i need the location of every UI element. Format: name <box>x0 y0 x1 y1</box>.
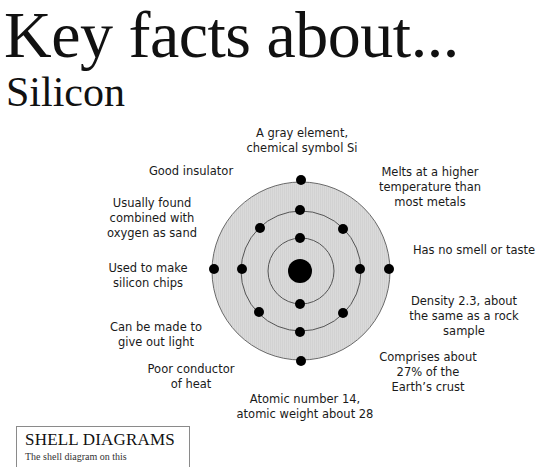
electron <box>296 175 306 185</box>
shell-diagrams-text: The shell diagram on this <box>25 451 127 463</box>
electron <box>255 223 265 233</box>
fact-sand: Usually found combined with oxygen as sa… <box>96 196 208 241</box>
electron <box>384 264 394 274</box>
fact-smell: Has no smell or taste <box>412 243 536 258</box>
electron <box>254 307 264 317</box>
electron <box>295 233 305 243</box>
fact-heat: Poor conductor of heat <box>136 362 246 392</box>
fact-chips: Used to make silicon chips <box>96 261 200 291</box>
fact-melts: Melts at a higher temperature than most … <box>370 165 490 210</box>
electron <box>338 308 348 318</box>
shell-diagrams-heading: SHELL DIAGRAMS <box>25 429 175 451</box>
electron <box>355 264 365 274</box>
electron <box>338 224 348 234</box>
electron <box>295 327 305 337</box>
electron <box>295 299 305 309</box>
electron <box>209 264 219 274</box>
fact-light: Can be made to give out light <box>96 320 216 350</box>
shell-diagrams-box: SHELL DIAGRAMS The shell diagram on this <box>16 426 190 467</box>
fact-density: Density 2.3, about the same as a rock sa… <box>402 294 526 339</box>
fact-top: A gray element, chemical symbol Si <box>227 126 377 156</box>
electron <box>237 264 247 274</box>
fact-crust: Comprises about 27% of the Earth’s crust <box>370 350 486 395</box>
fact-insulator: Good insulator <box>140 164 242 179</box>
fact-atomic: Atomic number 14, atomic weight about 28 <box>225 392 385 422</box>
nucleus <box>288 259 312 283</box>
electron <box>296 356 306 366</box>
electron <box>295 205 305 215</box>
